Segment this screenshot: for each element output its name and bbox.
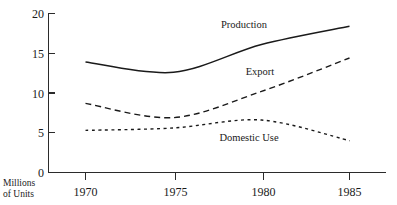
series-label-production: Production: [221, 19, 268, 30]
y-axis-caption-line1: Millions: [3, 178, 36, 188]
y-tick-label-20: 20: [32, 7, 44, 21]
series-annotations: Production Export Domestic Use: [219, 19, 279, 143]
y-axis-caption: Millions of Units: [3, 178, 36, 199]
x-tick-label-1980: 1980: [252, 185, 276, 199]
series-label-domestic-use: Domestic Use: [219, 132, 279, 143]
axes: [49, 13, 387, 173]
y-axis-ticks: [49, 14, 56, 173]
series-line-export: [86, 58, 350, 118]
y-axis-tick-labels: 20 15 10 5 0: [32, 7, 44, 180]
y-tick-label-5: 5: [38, 126, 44, 140]
x-tick-label-1970: 1970: [74, 185, 98, 199]
x-axis-tick-labels: 1970 1975 1980 1985: [74, 185, 362, 199]
chart-canvas: 20 15 10 5 0 1970 1975 1980 1985 Million…: [0, 0, 397, 205]
x-axis-ticks: [86, 173, 350, 181]
y-tick-label-0: 0: [38, 166, 44, 180]
series-line-production: [86, 26, 350, 73]
y-tick-label-10: 10: [32, 87, 44, 101]
y-axis-caption-line2: of Units: [3, 189, 34, 199]
series-line-domestic-use: [86, 120, 350, 141]
x-tick-label-1985: 1985: [338, 185, 362, 199]
line-chart: 20 15 10 5 0 1970 1975 1980 1985 Million…: [0, 0, 397, 205]
y-tick-label-15: 15: [32, 47, 44, 61]
series-label-export: Export: [246, 66, 275, 77]
x-tick-label-1975: 1975: [164, 185, 188, 199]
